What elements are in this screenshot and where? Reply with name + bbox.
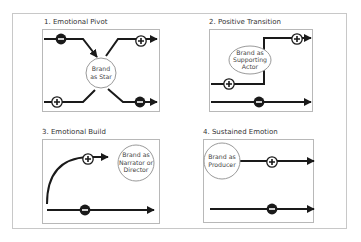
minus-circle-icon <box>267 204 278 215</box>
panel-4: Brand as Producer <box>204 140 315 223</box>
plus-circle-icon <box>136 36 146 46</box>
brand-label-line-1: Brand <box>92 65 111 72</box>
minus-circle-icon <box>56 34 67 45</box>
minus-circle-icon <box>254 97 265 108</box>
panel-3: Brand as Narrator or Director <box>43 140 160 224</box>
brand-label-line-1: Brand as <box>122 151 149 158</box>
brand-label-line-2: Producer <box>208 161 236 168</box>
diagram-canvas: Brand as Star Brand as Supporting Actor … <box>0 0 361 242</box>
minus-circle-icon <box>80 205 91 216</box>
brand-label-line-3: Director <box>124 166 149 173</box>
brand-label-line-1: Brand as <box>208 153 235 160</box>
panel-2: Brand as Supporting Actor <box>210 30 313 112</box>
plus-circle-icon <box>267 157 277 167</box>
panel-1: Brand as Star <box>43 30 160 112</box>
brand-label-line-2: Narrator or <box>119 159 154 166</box>
plus-circle-icon <box>52 97 62 107</box>
plus-circle-icon <box>83 154 93 164</box>
plus-circle-icon <box>224 79 234 89</box>
plus-circle-icon <box>292 34 302 44</box>
brand-label-line-1: Brand as <box>236 49 263 56</box>
minus-circle-icon <box>135 97 146 108</box>
brand-label-line-3: Actor <box>242 63 259 70</box>
brand-label-line-2: as Star <box>90 73 112 80</box>
